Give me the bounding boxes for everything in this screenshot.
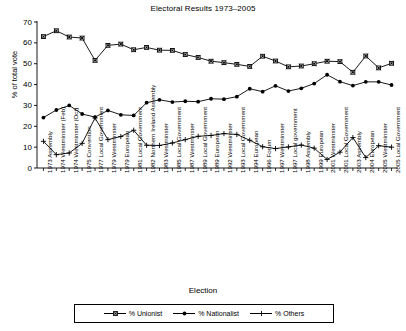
legend-plus-marker-icon (250, 309, 272, 318)
series-1 (41, 28, 394, 74)
x-axis-label: Election (0, 286, 406, 295)
legend-square-marker-icon (104, 309, 126, 318)
y-tick-label: 20 (23, 122, 32, 131)
plot-area: 010203040506070 (0, 0, 406, 331)
y-tick-label: 0 (28, 164, 33, 173)
y-tick-label: 70 (23, 18, 32, 27)
series-2 (42, 73, 394, 120)
legend-circle-marker-icon (173, 309, 195, 318)
series-3 (41, 115, 394, 162)
legend-label: % Unionist (129, 310, 162, 317)
y-tick-label: 40 (23, 80, 32, 89)
legend-label: % Others (275, 310, 304, 317)
legend-label: % Nationalist (198, 310, 239, 317)
y-tick-label: 10 (23, 143, 32, 152)
legend-item-1[interactable]: % Unionist (104, 309, 162, 318)
y-tick-label: 60 (23, 38, 32, 47)
y-tick-label: 30 (23, 101, 32, 110)
y-tick-label: 50 (23, 59, 32, 68)
chart-legend: % Unionist% Nationalist% Others (74, 304, 334, 323)
legend-item-3[interactable]: % Others (250, 309, 304, 318)
legend-item-2[interactable]: % Nationalist (173, 309, 239, 318)
chart-page: Electoral Results 1973–2005 % of total v… (0, 0, 406, 331)
